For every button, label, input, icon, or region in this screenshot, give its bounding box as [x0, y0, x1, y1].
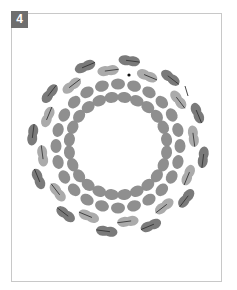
bead — [171, 122, 185, 138]
bead — [51, 139, 62, 153]
bead — [94, 199, 110, 213]
needle-dot — [127, 73, 130, 76]
bead — [65, 93, 83, 111]
bead — [104, 188, 119, 201]
bead — [56, 106, 73, 124]
bead — [117, 91, 132, 104]
bead — [171, 154, 185, 170]
bead — [140, 191, 158, 208]
bead — [153, 93, 171, 111]
bead — [94, 79, 110, 93]
bead — [126, 79, 142, 93]
bead — [63, 145, 76, 160]
bead — [111, 203, 125, 214]
bead — [104, 91, 119, 104]
bead — [51, 122, 65, 138]
bead — [163, 168, 180, 186]
bead — [51, 154, 65, 170]
bead — [56, 168, 73, 186]
bead — [160, 145, 173, 160]
bead — [78, 191, 96, 208]
bead — [153, 181, 171, 199]
bead — [126, 199, 142, 213]
bead — [160, 132, 173, 147]
bead — [117, 188, 132, 201]
bead-ring-diagram — [0, 0, 237, 290]
thread-end — [185, 86, 188, 96]
bead-ring — [26, 54, 209, 237]
bead — [163, 106, 180, 124]
bead — [65, 181, 83, 199]
bead — [175, 139, 186, 153]
bead — [78, 84, 96, 101]
bead — [111, 79, 125, 90]
bead — [63, 132, 76, 147]
bead — [140, 84, 158, 101]
